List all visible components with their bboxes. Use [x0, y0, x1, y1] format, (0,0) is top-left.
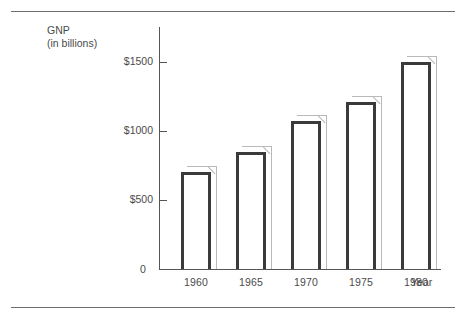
bar-1975[interactable]	[346, 102, 376, 269]
y-tick-label-0: 0	[140, 263, 146, 275]
bar-chart: GNP (in billions) $1500 $1000 $500 0 196…	[0, 0, 465, 322]
bar-1970[interactable]	[291, 121, 321, 269]
y-tick-label-1000: $1000	[70, 124, 153, 136]
y-axis-title-line1: GNP	[47, 24, 97, 37]
y-axis-line	[159, 27, 160, 270]
x-tick-label-1975: 1975	[336, 276, 386, 288]
y-tick-500	[159, 200, 167, 201]
y-tick-1500	[159, 62, 167, 63]
bar-1980[interactable]	[401, 62, 431, 269]
x-axis-line	[159, 269, 441, 270]
x-axis-title: Year	[411, 276, 432, 288]
bar-1965[interactable]	[236, 152, 266, 269]
y-tick-label-500: $500	[70, 193, 153, 205]
y-tick-1000	[159, 131, 167, 132]
x-tick-label-1960: 1960	[171, 276, 221, 288]
y-axis-title-line2: (in billions)	[47, 37, 97, 50]
figure: GNP (in billions) $1500 $1000 $500 0 196…	[0, 0, 465, 322]
y-axis-title: GNP (in billions)	[47, 24, 97, 50]
y-tick-label-1500: $1500	[70, 55, 153, 67]
bar-1960[interactable]	[181, 172, 211, 269]
x-tick-label-1970: 1970	[281, 276, 331, 288]
x-tick-label-1965: 1965	[226, 276, 276, 288]
